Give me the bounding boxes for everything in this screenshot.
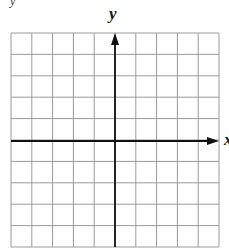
x-axis-arrow-icon bbox=[207, 137, 219, 145]
y-axis-label: y bbox=[109, 4, 117, 24]
coordinate-grid bbox=[0, 0, 229, 249]
corner-mark: y bbox=[10, 0, 15, 9]
y-axis-arrow-icon bbox=[111, 33, 119, 45]
x-axis-label: x bbox=[224, 130, 229, 150]
